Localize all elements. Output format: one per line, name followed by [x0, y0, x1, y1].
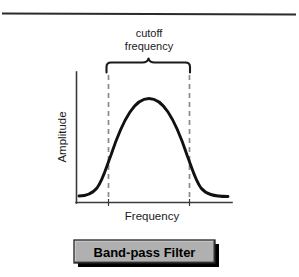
cutoff-annotation-line1: cutoff	[136, 27, 164, 39]
cutoff-brace	[107, 59, 191, 73]
top-divider-rule	[2, 14, 296, 15]
band-pass-filter-figure: cutoff frequency Frequency Amplitude Ban…	[0, 0, 299, 277]
band-pass-filter-caption-button[interactable]: Band-pass Filter	[74, 240, 219, 267]
y-axis-label: Amplitude	[56, 111, 68, 162]
figure-canvas: cutoff frequency Frequency Amplitude Ban…	[0, 0, 299, 277]
band-pass-response-curve	[79, 99, 228, 197]
caption-button-label: Band-pass Filter	[94, 245, 196, 260]
cutoff-annotation-line2: frequency	[125, 40, 174, 52]
x-axis-label: Frequency	[125, 210, 180, 222]
